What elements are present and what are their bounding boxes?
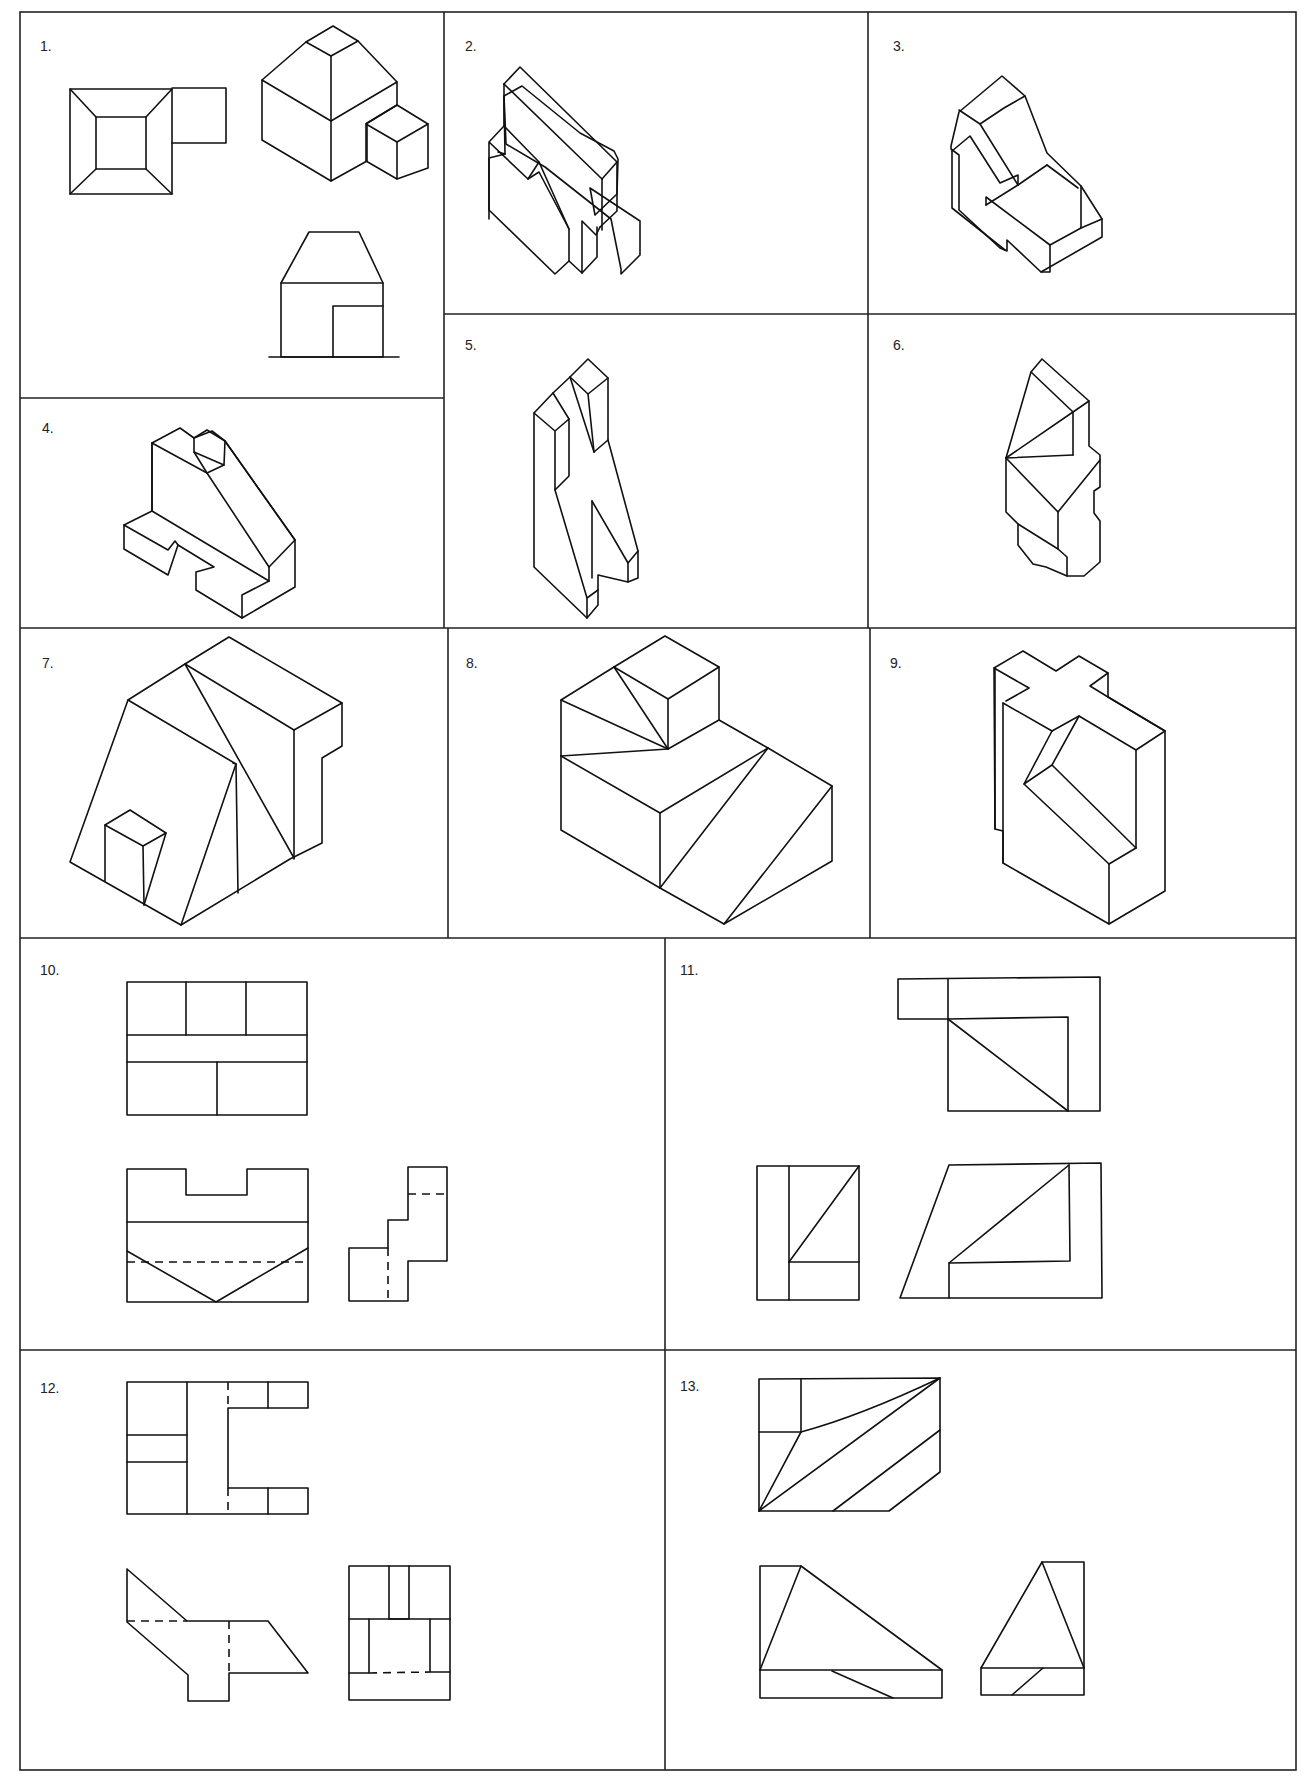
- figure-13: [0, 0, 1314, 1788]
- exercise-sheet: 1. 2.: [0, 0, 1314, 1788]
